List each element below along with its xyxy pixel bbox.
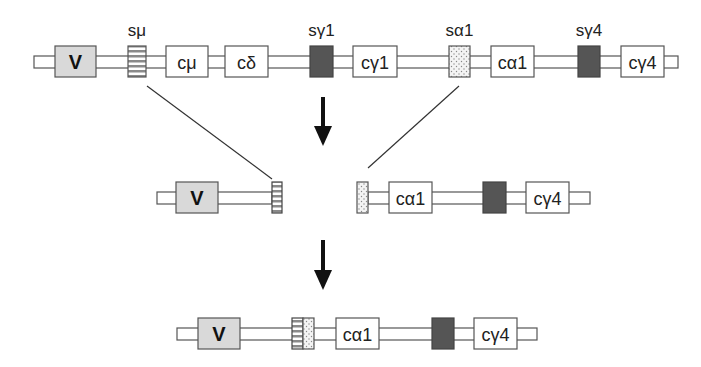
v-label: V bbox=[212, 323, 226, 345]
recombination-line-left bbox=[147, 86, 272, 179]
c-gamma1-segment: cγ1 bbox=[353, 46, 397, 77]
germline-locus-row: V sμ cμ cδ sγ1 cγ1 sα1 cα1 bbox=[34, 21, 678, 77]
v-segment: V bbox=[176, 182, 218, 213]
v-segment: V bbox=[55, 46, 96, 77]
s-alpha1-label: sα1 bbox=[446, 21, 474, 40]
s-mu-switch-region bbox=[292, 318, 303, 349]
c-gamma1-label: cγ1 bbox=[361, 53, 389, 73]
s-mu-label: sμ bbox=[128, 21, 146, 40]
c-mu-segment: cμ bbox=[166, 46, 208, 77]
recombination-line-right bbox=[368, 86, 459, 168]
c-gamma4-segment: cγ4 bbox=[526, 182, 569, 213]
s-mu-switch-region bbox=[128, 46, 146, 77]
c-alpha1-label: cα1 bbox=[396, 189, 425, 209]
s-alpha1-switch-region bbox=[303, 318, 314, 349]
s-alpha1-switch-region bbox=[449, 46, 470, 77]
c-gamma4-label: cγ4 bbox=[533, 189, 561, 209]
v-label: V bbox=[190, 187, 204, 209]
c-alpha1-segment: cα1 bbox=[336, 318, 379, 349]
v-label: V bbox=[69, 51, 83, 73]
c-gamma4-label: cγ4 bbox=[481, 325, 509, 345]
c-alpha1-segment: cα1 bbox=[389, 182, 432, 213]
s-mu-switch-region bbox=[272, 182, 282, 213]
s-gamma4-switch-region bbox=[432, 318, 454, 349]
s-alpha1-switch-region bbox=[357, 182, 368, 213]
down-arrow-icon bbox=[314, 97, 332, 146]
s-gamma1-label: sγ1 bbox=[308, 21, 334, 40]
c-delta-segment: cδ bbox=[225, 46, 268, 77]
s-gamma4-switch-region bbox=[578, 46, 600, 77]
s-gamma4-label: sγ4 bbox=[576, 21, 602, 40]
class-switch-diagram: V sμ cμ cδ sγ1 cγ1 sα1 cα1 bbox=[0, 0, 701, 367]
c-gamma4-label: cγ4 bbox=[628, 53, 656, 73]
recombined-locus-row: V cα1 cγ4 bbox=[177, 318, 537, 349]
s-gamma1-switch-region bbox=[310, 46, 333, 77]
c-gamma4-segment: cγ4 bbox=[474, 318, 517, 349]
intermediate-right-fragment: cα1 cγ4 bbox=[357, 182, 590, 213]
down-arrow-icon bbox=[314, 240, 332, 290]
c-alpha1-label: cα1 bbox=[498, 53, 527, 73]
c-alpha1-label: cα1 bbox=[343, 325, 372, 345]
c-delta-label: cδ bbox=[237, 53, 256, 73]
c-gamma4-segment: cγ4 bbox=[621, 46, 664, 77]
intermediate-left-fragment: V bbox=[157, 182, 282, 213]
s-gamma4-switch-region bbox=[483, 182, 506, 213]
v-segment: V bbox=[198, 318, 240, 349]
c-alpha1-segment: cα1 bbox=[491, 46, 534, 77]
c-mu-label: cμ bbox=[177, 53, 196, 73]
